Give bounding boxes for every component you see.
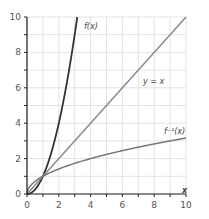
x-tick-label: 6 [120,200,126,210]
x-axis-label: x [181,186,188,195]
y-tick-label: 4 [15,118,21,128]
finv-label: f⁻¹(x) [164,127,185,136]
x-tick-label: 10 [180,200,192,210]
y-tick-label: 8 [15,47,21,57]
y-tick-label: 0 [15,189,21,199]
x-tick-label: 0 [24,200,30,210]
y-tick-label: 2 [15,154,21,164]
y-tick-label: 10 [10,12,22,22]
y-tick-label: 6 [15,83,21,93]
identity-label: y = x [142,77,165,86]
f-label: f(x) [84,22,98,31]
x-tick-label: 4 [88,200,94,210]
x-tick-label: 8 [151,200,157,210]
function-inverse-chart: 02468100246810 f(x) y = x f⁻¹(x) x [0,0,209,219]
x-tick-label: 2 [56,200,62,210]
